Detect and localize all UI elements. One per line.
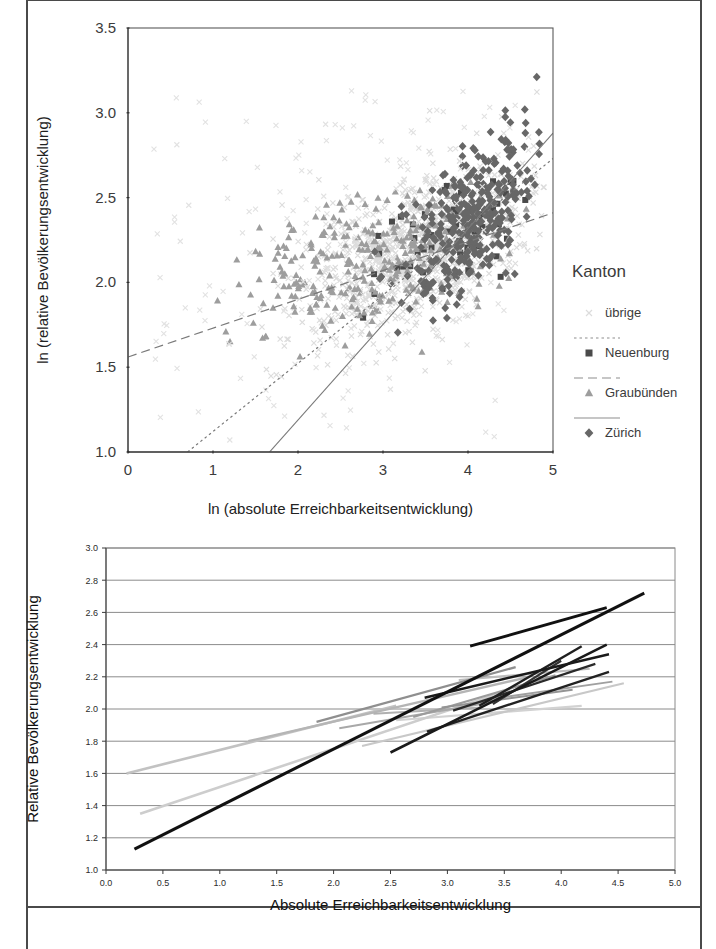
trend-segment (427, 672, 609, 732)
bottom-x-tick-label: 4.0 (555, 878, 568, 888)
legend-label: Graubünden (605, 385, 677, 400)
bottom-x-axis-ticks: 0.00.51.01.52.02.53.03.54.04.55.0 (100, 870, 682, 888)
bottom-y-tick-label: 1.2 (85, 833, 98, 843)
bottom-y-tick-label: 2.4 (85, 640, 98, 650)
legend-marker-triangle-icon (585, 389, 593, 397)
bottom-y-tick-label: 2.8 (85, 576, 98, 586)
bottom-y-tick-label: 1.0 (85, 865, 98, 875)
bottom-y-tick-label: 2.6 (85, 608, 98, 618)
legend-label: Neuenburg (605, 345, 669, 360)
bottom-x-axis-title: Absolute Erreichbarkeitsentwicklung (270, 896, 511, 913)
top-x-tick-label: 2 (294, 461, 302, 478)
bottom-x-tick-label: 1.0 (214, 878, 227, 888)
bottom-x-tick-label: 4.5 (612, 878, 625, 888)
bottom-x-tick-label: 2.0 (327, 878, 340, 888)
legend-label: Zürich (605, 425, 641, 440)
top-chart-legend: KantonübrigeNeuenburgGraubündenZürich (572, 262, 677, 440)
legend-marker-diamond-icon (585, 428, 594, 438)
top-x-tick-label: 4 (464, 461, 472, 478)
bottom-y-tick-label: 1.8 (85, 737, 98, 747)
trendline-neuenburg (183, 159, 553, 456)
legend-label: übrige (605, 305, 641, 320)
top-y-tick-label: 3.0 (95, 104, 116, 121)
bottom-line-chart: 0.00.51.01.52.02.53.03.54.04.55.01.01.21… (0, 492, 716, 912)
trend-segment (134, 593, 644, 849)
legend-item-graubnden[interactable]: Graubünden (574, 378, 677, 400)
top-axes (128, 28, 553, 452)
top-chart-svg: 0123451.01.52.02.53.03.5ln (absolute Err… (0, 0, 716, 500)
bottom-plot-data (126, 593, 644, 849)
bottom-y-axis-ticks: 1.01.21.41.61.82.02.22.42.62.83.0 (85, 543, 106, 875)
trend-segment (391, 645, 607, 753)
bottom-x-tick-label: 3.0 (441, 878, 454, 888)
bottom-x-tick-label: 0.0 (100, 878, 113, 888)
legend-item-zrich[interactable]: Zürich (574, 418, 641, 440)
top-y-axis-title: ln (relative Bevölkerungsentwicklung) (34, 116, 51, 364)
bottom-x-tick-label: 5.0 (669, 878, 682, 888)
legend-item-brige[interactable]: übrige (586, 305, 641, 320)
bottom-chart-svg: 0.00.51.01.52.02.53.03.54.04.55.01.01.21… (0, 492, 716, 912)
bottom-y-tick-label: 2.0 (85, 704, 98, 714)
top-y-tick-label: 2.5 (95, 189, 116, 206)
legend-marker-x-thin-icon (586, 310, 592, 316)
trend-segment (425, 654, 609, 697)
bottom-x-tick-label: 0.5 (157, 878, 170, 888)
top-scatter-chart: 0123451.01.52.02.53.03.5ln (absolute Err… (0, 0, 716, 500)
bottom-x-tick-label: 1.5 (270, 878, 283, 888)
bottom-x-tick-label: 2.5 (384, 878, 397, 888)
top-y-tick-label: 2.0 (95, 273, 116, 290)
figure-page: 0123451.01.52.02.53.03.5ln (absolute Err… (0, 0, 716, 949)
trend-segment (470, 608, 607, 647)
bottom-y-tick-label: 3.0 (85, 543, 98, 553)
top-plot-data (128, 73, 553, 456)
top-x-tick-label: 1 (209, 461, 217, 478)
top-y-tick-label: 1.5 (95, 358, 116, 375)
legend-marker-square-icon (586, 350, 593, 357)
top-x-tick-label: 0 (124, 461, 132, 478)
top-y-axis-ticks: 1.01.52.02.53.03.5 (95, 19, 129, 460)
top-y-tick-label: 1.0 (95, 443, 116, 460)
top-x-axis-ticks: 012345 (124, 451, 557, 479)
legend-title: Kanton (572, 262, 626, 281)
bottom-x-tick-label: 3.5 (498, 878, 511, 888)
bottom-y-axis-title: Relative Bevölkerungsentwicklung (24, 595, 41, 823)
top-x-tick-label: 5 (549, 461, 557, 478)
bottom-y-tick-label: 2.2 (85, 672, 98, 682)
trendline-zrich (267, 133, 553, 455)
top-plot-border (128, 28, 553, 452)
top-x-tick-label: 3 (379, 461, 387, 478)
bottom-y-tick-label: 1.4 (85, 801, 98, 811)
bottom-y-tick-label: 1.6 (85, 769, 98, 779)
top-y-tick-label: 3.5 (95, 19, 116, 36)
legend-item-neuenburg[interactable]: Neuenburg (574, 338, 669, 360)
